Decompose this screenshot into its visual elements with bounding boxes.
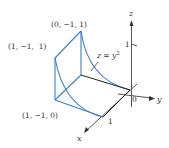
surface-equation-base: z = y [96,51,117,60]
origin-label: 0 [132,95,137,104]
z-tick-label: 1 [125,40,130,49]
surface-edges [55,31,130,117]
edge-bottom-left [55,75,81,100]
surface-equation-exponent: 2 [116,50,120,56]
edge-top [55,31,81,58]
z-axis-arrow-icon [130,20,134,26]
z-tick [132,44,138,46]
z-axis-label: z [128,9,134,18]
x-axis-arrow-icon [84,127,89,133]
surface-equation-label: z = y2 [96,50,120,60]
point-label-1-neg1-1: (1, −1, 1) [8,42,46,51]
point-label-0-neg1-1: (0, −1, 1) [51,20,87,29]
y-axis-label: y [156,95,162,104]
x-tick-label: 1 [108,117,113,126]
base-back-edge [81,75,130,90]
point-label-1-neg1-0: (1, −1, 0) [22,111,58,120]
y-axis-arrow-icon [149,96,155,101]
base-front-edge [103,90,130,117]
curve-back [81,31,130,90]
x-axis-label: x [77,134,82,143]
surface-diagram: z y x 0 1 1 (0, −1, 1) (1, −1, 1) (1, −1… [0,0,169,148]
